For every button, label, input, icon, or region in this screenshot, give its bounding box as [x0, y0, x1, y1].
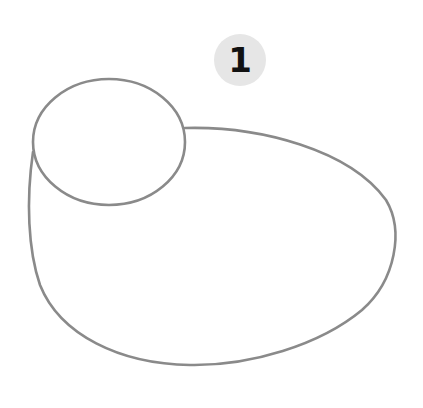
body-outline: [29, 128, 395, 365]
drawing-canvas: 1: [0, 0, 423, 408]
step-number-label: 1: [228, 40, 252, 80]
step-badge: 1: [214, 34, 266, 86]
head-oval: [33, 79, 185, 205]
